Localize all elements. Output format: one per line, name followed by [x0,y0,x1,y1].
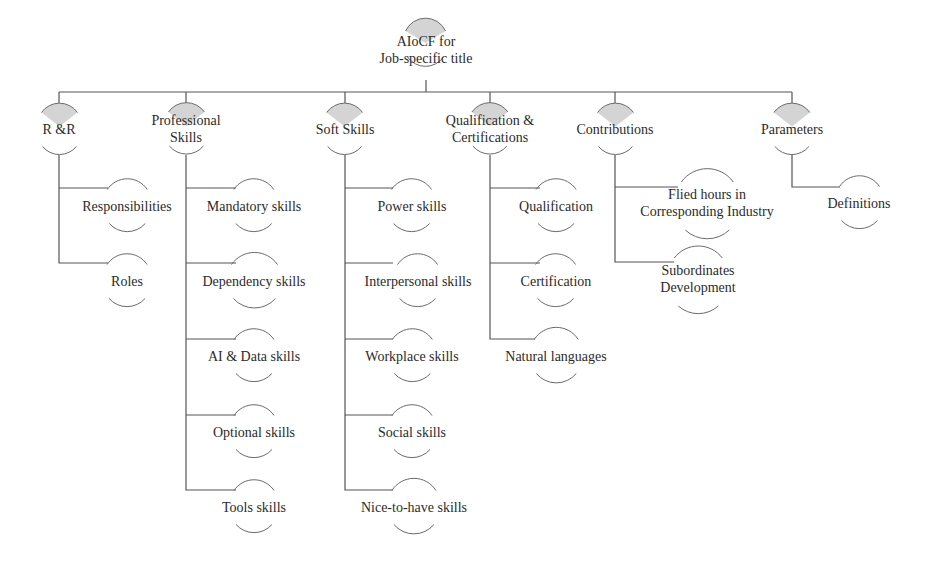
leaf-label: Definitions [828,195,891,212]
leaf-label-line2: Development [660,279,735,296]
leaf-label: Nice-to-have skills [361,499,467,516]
root-label: AIoCF for Job-specific title [380,33,473,67]
category-label-line2: Skills [151,129,220,146]
leaf-node: Dependency skills [202,273,305,290]
leaf-label: Mandatory skills [207,198,302,215]
category-node-contributions: Contributions [576,121,653,138]
leaf-node: Certification [521,273,592,290]
category-node-r-and-r: R &R [42,121,75,138]
category-label-line1: Professional [151,112,220,129]
leaf-node: Workplace skills [365,348,458,365]
category-label: R &R [42,121,75,138]
leaf-node: Definitions [828,195,891,212]
root-label-line1: AIoCF for [380,33,473,50]
leaf-label-line1: Flied hours in [640,186,773,203]
leaf-label: Tools skills [222,499,286,516]
category-label: Contributions [576,121,653,138]
leaf-node: Qualification [519,198,593,215]
leaf-label: Social skills [378,424,446,441]
category-node-qualification-certifications: Qualification & Certifications [446,112,534,146]
leaf-node: Tools skills [222,499,286,516]
leaf-label: Certification [521,273,592,290]
leaf-label: Roles [111,273,143,290]
leaf-node: AI & Data skills [208,348,300,365]
leaf-label-line1: Subordinates [660,262,735,279]
leaf-node: Natural languages [505,348,606,365]
category-label-line2: Certifications [446,129,534,146]
leaf-node: Flied hours in Corresponding Industry [640,186,773,220]
leaf-label: Workplace skills [365,348,458,365]
category-node-soft-skills: Soft Skills [316,121,375,138]
leaf-label: Natural languages [505,348,606,365]
category-label-line1: Qualification & [446,112,534,129]
leaf-label: Optional skills [213,424,295,441]
category-label: Parameters [761,121,823,138]
leaf-node: Social skills [378,424,446,441]
root-node: AIoCF for Job-specific title [380,33,473,67]
leaf-node: Roles [111,273,143,290]
category-label: Soft Skills [316,121,375,138]
leaf-node: Optional skills [213,424,295,441]
leaf-label: Responsibilities [82,198,171,215]
leaf-label: Dependency skills [202,273,305,290]
leaf-node: Responsibilities [82,198,171,215]
leaf-node: Power skills [378,198,447,215]
category-node-professional-skills: Professional Skills [151,112,220,146]
leaf-label-line2: Corresponding Industry [640,203,773,220]
leaf-label: Power skills [378,198,447,215]
leaf-node: Mandatory skills [207,198,302,215]
aiocf-tree-diagram: AIoCF for Job-specific title R &R Profes… [0,0,927,565]
leaf-node: Nice-to-have skills [361,499,467,516]
category-node-parameters: Parameters [761,121,823,138]
leaf-label: AI & Data skills [208,348,300,365]
leaf-node: Subordinates Development [660,262,735,296]
leaf-label: Interpersonal skills [365,273,472,290]
root-label-line2: Job-specific title [380,50,473,67]
leaf-label: Qualification [519,198,593,215]
leaf-node: Interpersonal skills [365,273,472,290]
